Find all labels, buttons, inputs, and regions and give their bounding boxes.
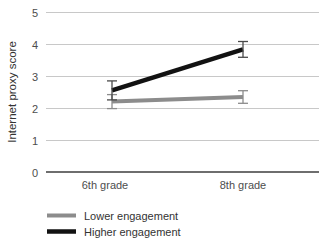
series-higher-engagement bbox=[107, 42, 248, 100]
gridlines bbox=[46, 13, 319, 141]
y-tick-label-1: 1 bbox=[32, 135, 38, 147]
legend-label-lower-engagement: Lower engagement bbox=[84, 210, 178, 222]
y-tick-label-2: 2 bbox=[32, 103, 38, 115]
y-axis-title: Internet proxy score bbox=[6, 41, 18, 143]
y-tick-label-0: 0 bbox=[32, 167, 38, 179]
series-higher-line bbox=[112, 49, 243, 90]
x-category-label-6th-grade: 6th grade bbox=[82, 179, 128, 191]
x-category-label-8th-grade: 8th grade bbox=[220, 179, 266, 191]
legend-label-higher-engagement: Higher engagement bbox=[84, 226, 181, 238]
x-category-labels: 6th grade 8th grade bbox=[82, 179, 266, 191]
y-tick-label-4: 4 bbox=[32, 39, 38, 51]
chart-figure: 5 4 3 2 1 0 Internet proxy score bbox=[0, 0, 324, 245]
legend-item-lower-engagement[interactable]: Lower engagement bbox=[47, 210, 178, 222]
chart-legend: Lower engagement Higher engagement bbox=[47, 210, 181, 238]
series-lower-line bbox=[112, 97, 243, 102]
legend-item-higher-engagement[interactable]: Higher engagement bbox=[47, 226, 181, 238]
y-tick-label-5: 5 bbox=[32, 7, 38, 19]
y-tick-labels: 5 4 3 2 1 0 bbox=[32, 7, 38, 179]
y-tick-label-3: 3 bbox=[32, 71, 38, 83]
series-lower-engagement bbox=[107, 91, 248, 109]
line-chart: 5 4 3 2 1 0 Internet proxy score bbox=[0, 0, 324, 245]
